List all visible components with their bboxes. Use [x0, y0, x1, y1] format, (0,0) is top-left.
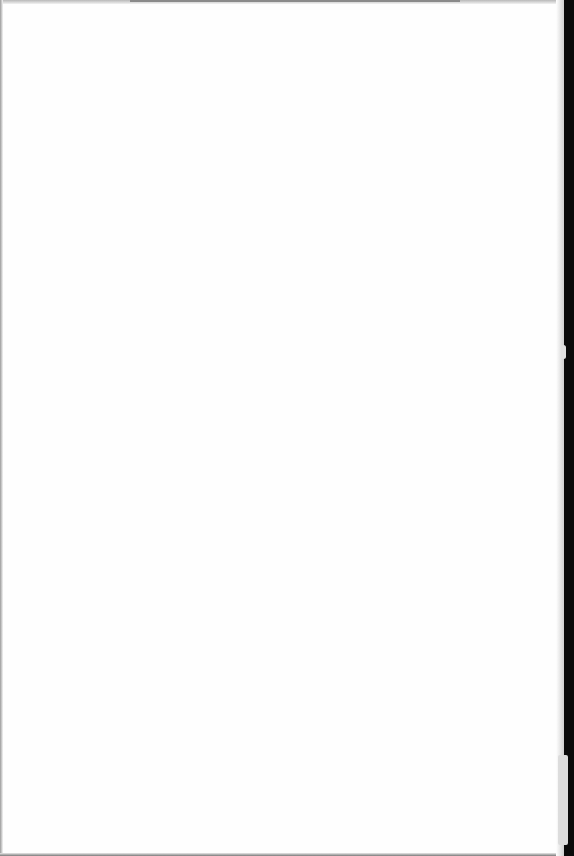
- blank-page: [0, 0, 574, 856]
- right-binding-edge: [564, 0, 574, 856]
- page-content-area: [40, 40, 534, 816]
- right-page-shadow: [556, 0, 564, 856]
- top-shadow-band: [130, 0, 460, 2]
- page-edge-tab: [561, 345, 566, 359]
- page-edge-tab-lower: [558, 755, 568, 845]
- left-scan-edge: [0, 0, 3, 856]
